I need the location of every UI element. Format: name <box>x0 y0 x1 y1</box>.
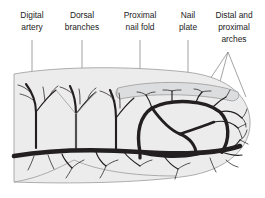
label-arches-line1: Distal and <box>215 10 253 20</box>
label-dorsal-branches-line1: Dorsal <box>70 10 94 20</box>
label-nail-plate-line2: plate <box>179 22 198 32</box>
fingertip-vascular-diagram: Digital artery Dorsal branches Proximal … <box>0 0 265 198</box>
label-nail-plate-line1: Nail <box>181 10 196 20</box>
label-digital-artery-line1: Digital <box>20 10 43 20</box>
label-proximal-nail-fold-line2: nail fold <box>126 22 155 32</box>
label-digital-artery-line2: artery <box>21 22 43 32</box>
label-arches-line3: arches <box>221 34 246 44</box>
label-dorsal-branches-line2: branches <box>65 22 99 32</box>
label-proximal-nail-fold-line1: Proximal <box>124 10 157 20</box>
label-texts: Digital artery Dorsal branches Proximal … <box>20 10 253 44</box>
label-arches-line2: proximal <box>218 22 250 32</box>
